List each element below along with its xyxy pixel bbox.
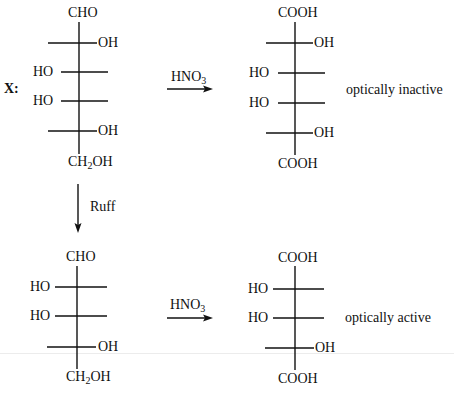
carboxyl-top: COOH — [278, 251, 318, 265]
carboxyl-bottom: COOH — [278, 372, 318, 386]
hydroxymethyl-group: CH2OH — [68, 155, 113, 169]
hydroxyl-right: OH — [98, 124, 118, 138]
compound-x-label: X: — [4, 82, 19, 96]
hydroxyl-right: OH — [98, 340, 118, 354]
hydroxyl-right: OH — [314, 126, 334, 140]
hydroxyl-left: HO — [33, 94, 53, 108]
fischer-projection-lines — [0, 0, 454, 393]
hydroxyl-left: HO — [248, 311, 268, 325]
aldehyde-group: CHO — [66, 250, 96, 264]
hydroxyl-right: OH — [315, 341, 335, 355]
carboxyl-bottom: COOH — [278, 157, 318, 171]
hydroxyl-left: HO — [33, 65, 53, 79]
reagent-ruff: Ruff — [90, 200, 115, 214]
reagent-hno3-bottom: HNO3 — [170, 298, 205, 312]
hydroxymethyl-group: CH2OH — [66, 370, 111, 384]
hydroxyl-left: HO — [248, 282, 268, 296]
hydroxyl-left: HO — [30, 309, 50, 323]
hydroxyl-left: HO — [249, 96, 269, 110]
optical-activity-label-bottom: optically active — [345, 311, 431, 325]
hydroxyl-left: HO — [249, 66, 269, 80]
carboxyl-top: COOH — [278, 6, 318, 20]
hydroxyl-left: HO — [30, 280, 50, 294]
hydroxyl-right: OH — [314, 36, 334, 50]
reagent-hno3-top: HNO3 — [171, 70, 206, 84]
optical-activity-label-top: optically inactive — [346, 83, 443, 97]
aldehyde-group: CHO — [68, 6, 98, 20]
hydroxyl-right: OH — [98, 36, 118, 50]
